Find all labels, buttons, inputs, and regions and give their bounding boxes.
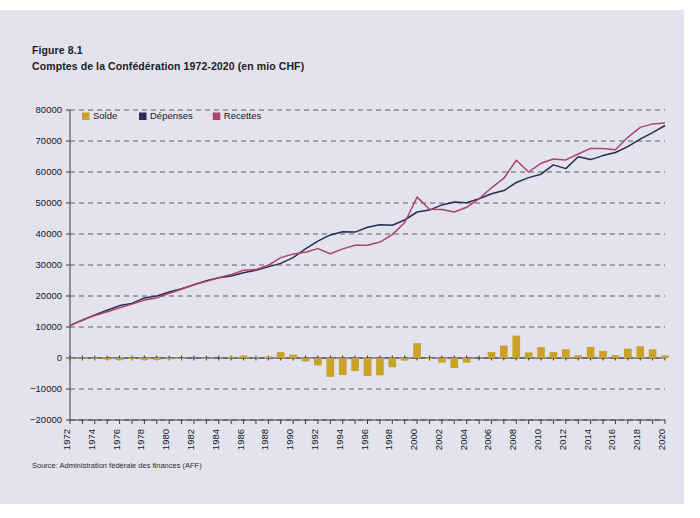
bar-solde — [203, 358, 211, 359]
x-axis-label: 1978 — [135, 429, 146, 450]
x-axis-label: 2020 — [656, 429, 667, 450]
bar-solde — [401, 358, 409, 360]
x-axis-label: 1972 — [61, 429, 72, 450]
x-axis-label: 1988 — [259, 429, 270, 450]
bar-solde — [165, 358, 173, 359]
bar-solde — [562, 349, 570, 358]
y-axis-label: −10000 — [30, 383, 62, 394]
x-axis-label: 1984 — [210, 429, 221, 450]
x-axis-label: 1994 — [334, 429, 345, 450]
bar-solde — [227, 357, 235, 358]
bar-solde — [550, 352, 558, 358]
figure-page: Figure 8.1 Comptes de la Confédération 1… — [0, 0, 684, 504]
bar-solde — [116, 358, 124, 360]
bar-solde — [624, 349, 632, 358]
bar-solde — [488, 352, 496, 358]
bar-solde — [649, 349, 657, 358]
bar-solde — [376, 358, 384, 375]
bar-solde — [525, 352, 533, 358]
x-axis-label: 2000 — [408, 429, 419, 450]
bar-solde — [636, 346, 644, 358]
bar-solde — [537, 347, 545, 358]
x-axis-label: 1998 — [383, 429, 394, 450]
y-axis-label: 20000 — [36, 290, 62, 301]
y-axis-label: 70000 — [36, 135, 62, 146]
bar-solde — [587, 347, 595, 358]
x-axis-label: 1996 — [359, 429, 370, 450]
bar-solde — [661, 356, 669, 358]
x-axis-label: 1976 — [111, 429, 122, 450]
bar-solde — [450, 358, 458, 368]
x-axis-label: 1986 — [235, 429, 246, 450]
x-axis-label: 1992 — [309, 429, 320, 450]
bar-solde — [66, 358, 74, 359]
bar-solde — [326, 358, 334, 377]
bar-solde — [128, 358, 136, 359]
top-margin — [0, 0, 700, 10]
bar-solde — [388, 358, 396, 367]
x-axis-label: 1974 — [86, 429, 97, 450]
legend-label: Solde — [93, 110, 117, 121]
x-axis-label: 2018 — [631, 429, 642, 450]
x-axis-label: 2016 — [606, 429, 617, 450]
x-axis-label: 1990 — [284, 429, 295, 450]
bar-solde — [463, 358, 471, 363]
legend-label: Dépenses — [150, 110, 193, 121]
x-axis-label: 1980 — [160, 429, 171, 450]
legend-swatch — [213, 113, 221, 121]
bar-solde — [178, 358, 186, 359]
y-axis-label: 10000 — [36, 321, 62, 332]
bar-solde — [153, 358, 161, 360]
bar-solde — [500, 346, 508, 358]
bar-solde — [252, 357, 260, 358]
y-axis-label: 40000 — [36, 228, 62, 239]
x-axis-label: 2008 — [507, 429, 518, 450]
y-axis-label: 50000 — [36, 197, 62, 208]
y-axis-label: 30000 — [36, 259, 62, 270]
bar-solde — [426, 358, 434, 359]
legend-swatch — [139, 113, 147, 121]
bar-solde — [141, 358, 149, 360]
x-axis-label: 1982 — [185, 429, 196, 450]
bar-solde — [289, 355, 297, 358]
bar-solde — [103, 358, 111, 360]
x-axis-label: 2014 — [582, 429, 593, 450]
chart-canvas: −20000−100000100002000030000400005000060… — [0, 0, 684, 504]
bar-solde — [339, 358, 347, 375]
bar-solde — [351, 358, 359, 371]
bar-solde — [302, 358, 310, 361]
x-axis-label: 2006 — [482, 429, 493, 450]
x-axis-label: 2010 — [532, 429, 543, 450]
x-axis-label: 2002 — [433, 429, 444, 450]
bar-solde — [364, 358, 372, 376]
x-axis-label: 2012 — [557, 429, 568, 450]
legend-label: Recettes — [224, 110, 262, 121]
bar-solde — [79, 358, 87, 359]
bar-solde — [438, 358, 446, 363]
bar-solde — [413, 343, 421, 358]
bar-solde — [264, 356, 272, 358]
bar-solde — [599, 351, 607, 358]
bar-solde — [574, 355, 582, 358]
bar-solde — [314, 358, 322, 365]
y-axis-label: 80000 — [36, 104, 62, 115]
y-axis-label: 60000 — [36, 166, 62, 177]
legend-swatch — [82, 113, 90, 121]
x-axis-label: 2004 — [458, 429, 469, 450]
bar-solde — [240, 356, 248, 358]
y-axis-label: 0 — [57, 352, 62, 363]
bar-solde — [612, 355, 620, 358]
bar-solde — [512, 336, 520, 358]
y-axis-label: −20000 — [30, 414, 62, 425]
bar-solde — [277, 352, 285, 358]
bar-solde — [91, 358, 99, 359]
chart-svg: −20000−100000100002000030000400005000060… — [0, 0, 684, 504]
